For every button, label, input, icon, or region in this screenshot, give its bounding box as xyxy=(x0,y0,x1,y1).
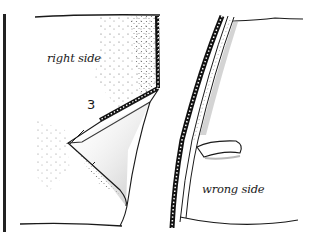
seam-illustration: right side 3 wrong side xyxy=(0,0,317,238)
illustration-canvas xyxy=(0,0,317,238)
label-step-marker: 3 xyxy=(87,97,95,112)
wrong-side-fabric xyxy=(172,16,303,228)
label-wrong-side: wrong side xyxy=(202,182,264,196)
label-right-side: right side xyxy=(47,51,101,65)
left-border-bar xyxy=(3,14,6,232)
